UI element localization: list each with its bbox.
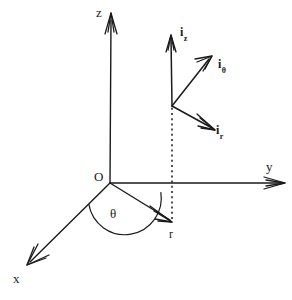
i-r-label: ir <box>216 124 223 139</box>
r-vector <box>110 183 172 222</box>
i-theta-vector-line <box>172 59 209 106</box>
z-axis-line <box>110 20 111 183</box>
theta-angle-label: θ <box>110 207 116 220</box>
i-theta-symbol: i <box>218 57 221 71</box>
x-axis <box>27 183 110 265</box>
i-r-vector <box>172 106 215 130</box>
i-theta-label: iθ <box>218 58 226 73</box>
i-z-subscript: z <box>184 34 188 43</box>
i-r-vector-line <box>172 106 212 128</box>
diagram-canvas <box>0 0 292 300</box>
theta-angle-arc <box>89 192 161 234</box>
i-r-subscript: r <box>220 132 224 141</box>
i-theta-arrowhead <box>195 56 212 71</box>
z-axis-label: z <box>96 6 102 19</box>
i-theta-subscript: θ <box>222 66 226 75</box>
x-axis-label: x <box>13 272 20 285</box>
i-z-label: iz <box>180 26 187 41</box>
i-z-symbol: i <box>180 25 183 39</box>
r-vector-label: r <box>169 228 173 240</box>
i-z-vector <box>166 35 176 106</box>
i-theta-vector <box>172 56 212 106</box>
z-axis <box>105 13 117 183</box>
origin-label: O <box>94 170 103 183</box>
y-axis <box>110 177 285 189</box>
i-z-vector-line <box>171 38 172 106</box>
cylindrical-coordinates-figure: z y x O θ r iz iθ ir <box>0 0 292 300</box>
i-r-symbol: i <box>216 123 219 137</box>
y-axis-label: y <box>266 160 273 173</box>
